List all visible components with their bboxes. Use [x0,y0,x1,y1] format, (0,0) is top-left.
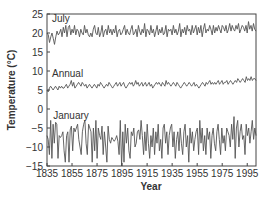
y-tick-label: 5 [37,85,43,96]
temperature-chart: JulyAnnualJanuary −15−10−50510152025 183… [0,0,270,200]
y-axis-label: Temperature (°C) [6,50,17,131]
x-tick-label: 1835 [36,168,59,179]
x-tick-label: 1995 [236,168,259,179]
series-label-annual: Annual [52,68,83,79]
series-line-july [47,22,256,45]
y-tick-label: 0 [37,104,43,115]
series-line-annual [47,77,256,92]
x-tick-label: 1855 [61,168,84,179]
x-axis: 183518551875189519151935195519751995 [36,163,259,179]
x-tick-label: 1935 [161,168,184,179]
plot-area: JulyAnnualJanuary [47,13,256,166]
x-tick-label: 1895 [111,168,134,179]
x-tick-label: 1875 [86,168,109,179]
x-tick-label: 1915 [136,168,159,179]
x-tick-label: 1975 [211,168,234,179]
x-axis-label: Year [140,181,161,192]
y-tick-label: −5 [32,123,44,134]
y-axis: −15−10−50510152025 [26,9,50,172]
series-line-january [47,117,256,166]
y-tick-label: 10 [32,66,44,77]
y-tick-label: −10 [26,142,43,153]
y-tick-label: 15 [32,47,44,58]
x-tick-label: 1955 [186,168,209,179]
series-label-january: January [53,110,89,121]
y-tick-label: 20 [32,28,44,39]
y-tick-label: 25 [32,9,44,20]
